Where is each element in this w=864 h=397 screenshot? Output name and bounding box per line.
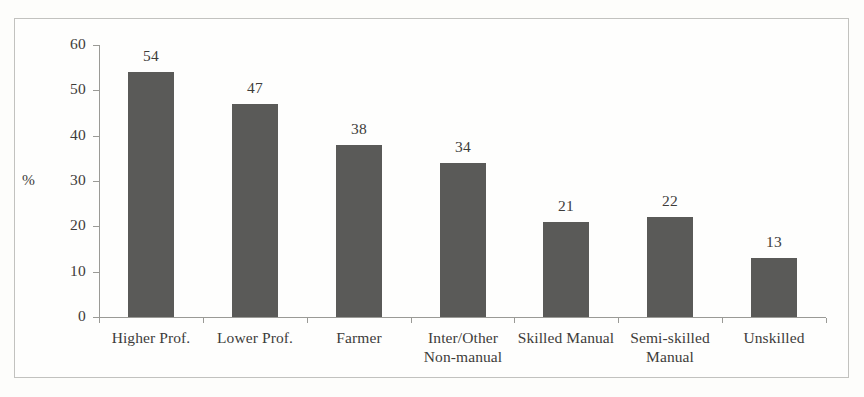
x-axis-tick	[99, 318, 100, 323]
y-axis-tick-label: 50	[40, 80, 86, 98]
bar-chart-plot-area: % 0102030405060 54473834212213 Higher Pr…	[0, 0, 864, 397]
bar	[751, 258, 797, 317]
y-axis-tick	[93, 272, 99, 273]
bar	[336, 145, 382, 317]
x-axis-category-label-line: Inter/Other	[411, 328, 515, 347]
y-axis-tick-label: 0	[40, 307, 86, 325]
x-axis-tick	[514, 318, 515, 323]
x-axis-category-label-line: Skilled Manual	[514, 328, 618, 347]
bar	[232, 104, 278, 317]
x-axis-category-label-line: Farmer	[307, 328, 411, 347]
x-axis-category-label: Unskilled	[722, 328, 826, 347]
bar-value-label: 47	[215, 79, 295, 97]
y-axis-tick	[93, 45, 99, 46]
y-axis-line	[99, 45, 100, 318]
bar-value-label: 13	[734, 233, 814, 251]
x-axis-category-label-line: Non-manual	[411, 347, 515, 366]
x-axis-category-label-line: Lower Prof.	[203, 328, 307, 347]
bar	[647, 217, 693, 317]
x-axis-category-label-line: Unskilled	[722, 328, 826, 347]
y-axis-tick	[93, 136, 99, 137]
x-axis-category-label: Farmer	[307, 328, 411, 347]
x-axis-tick	[203, 318, 204, 323]
y-axis-tick	[93, 181, 99, 182]
x-axis-category-label: Skilled Manual	[514, 328, 618, 347]
y-axis-tick	[93, 90, 99, 91]
y-axis-tick	[93, 226, 99, 227]
x-axis-category-label: Semi-skilledManual	[618, 328, 722, 366]
y-axis-tick-label: 30	[40, 171, 86, 189]
y-axis-tick-label: 60	[40, 35, 86, 53]
bar	[440, 163, 486, 317]
bar-value-label: 34	[423, 138, 503, 156]
x-axis-line	[99, 317, 826, 318]
bar	[543, 222, 589, 317]
x-axis-category-label-line: Manual	[618, 347, 722, 366]
bar	[128, 72, 174, 317]
x-axis-tick	[618, 318, 619, 323]
chart-figure: % 0102030405060 54473834212213 Higher Pr…	[0, 0, 864, 397]
x-axis-tick	[826, 318, 827, 323]
x-axis-category-label: Inter/OtherNon-manual	[411, 328, 515, 366]
x-axis-category-label: Lower Prof.	[203, 328, 307, 347]
y-axis-tick-label: 10	[40, 262, 86, 280]
y-axis-tick-label: 40	[40, 126, 86, 144]
bar-value-label: 54	[111, 47, 191, 65]
bar-value-label: 21	[526, 197, 606, 215]
x-axis-category-label-line: Higher Prof.	[99, 328, 203, 347]
bar-value-label: 38	[319, 120, 399, 138]
x-axis-category-label-line: Semi-skilled	[618, 328, 722, 347]
y-axis-tick-label: 20	[40, 216, 86, 234]
bar-value-label: 22	[630, 192, 710, 210]
x-axis-tick	[411, 318, 412, 323]
x-axis-tick	[722, 318, 723, 323]
x-axis-tick	[307, 318, 308, 323]
x-axis-category-label: Higher Prof.	[99, 328, 203, 347]
y-axis-title: %	[22, 171, 35, 189]
